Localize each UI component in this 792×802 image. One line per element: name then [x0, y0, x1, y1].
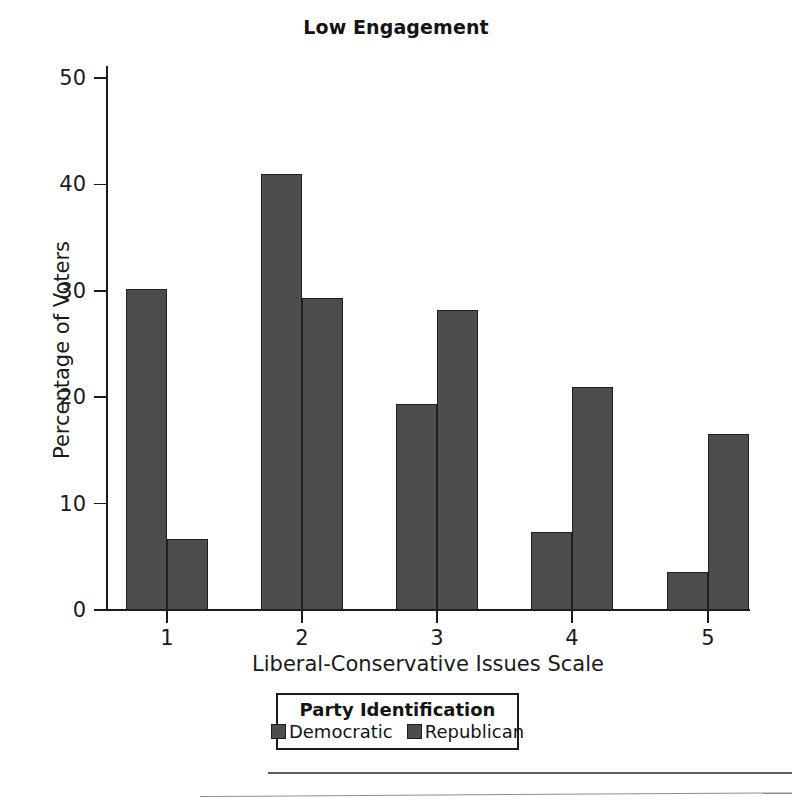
bar-republican-2 — [302, 298, 343, 610]
y-tick-10 — [94, 503, 106, 505]
y-tick-40 — [94, 184, 106, 186]
y-tick-50 — [94, 77, 106, 79]
x-axis-label: Liberal-Conservative Issues Scale — [106, 652, 750, 676]
bar-democratic-3 — [396, 404, 437, 610]
bar-democratic-4 — [531, 532, 572, 610]
bar-democratic-5 — [667, 572, 708, 610]
bar-republican-5 — [708, 434, 749, 610]
y-axis-label: Percentage of Voters — [50, 170, 74, 530]
y-tick-30 — [94, 290, 106, 292]
legend-entry-republican: Republican — [407, 721, 524, 742]
x-tick-label-4: 4 — [542, 626, 602, 650]
x-tick-label-5: 5 — [678, 626, 738, 650]
y-tick-label-50: 50 — [26, 66, 86, 90]
bar-democratic-2 — [261, 174, 302, 610]
bar-republican-1 — [167, 539, 208, 610]
y-tick-label-40: 40 — [26, 172, 86, 196]
page-rule-top — [268, 772, 792, 774]
bar-democratic-1 — [126, 289, 167, 610]
legend-swatch-republican-icon — [407, 724, 422, 739]
x-tick-4 — [571, 611, 573, 623]
x-tick-label-3: 3 — [407, 626, 467, 650]
legend: Party Identification DemocraticRepublica… — [276, 693, 519, 750]
legend-title: Party Identification — [286, 699, 509, 720]
x-tick-2 — [301, 611, 303, 623]
x-tick-1 — [166, 611, 168, 623]
bar-republican-4 — [572, 387, 613, 610]
bar-republican-3 — [437, 310, 478, 610]
bar-chart-figure: Low Engagement Percentage of Voters Libe… — [0, 0, 792, 802]
x-tick-5 — [707, 611, 709, 623]
y-tick-label-0: 0 — [26, 598, 86, 622]
legend-label-democratic: Democratic — [289, 721, 393, 742]
plot-area: Percentage of Voters Liberal-Conservativ… — [0, 0, 792, 802]
y-tick-20 — [94, 396, 106, 398]
y-tick-label-10: 10 — [26, 492, 86, 516]
x-tick-label-2: 2 — [272, 626, 332, 650]
y-tick-label-30: 30 — [26, 279, 86, 303]
legend-label-republican: Republican — [425, 721, 524, 742]
y-tick-label-20: 20 — [26, 385, 86, 409]
x-tick-label-1: 1 — [137, 626, 197, 650]
legend-swatch-democratic-icon — [271, 724, 286, 739]
legend-entry-democratic: Democratic — [271, 721, 393, 742]
x-tick-3 — [436, 611, 438, 623]
y-tick-0 — [94, 609, 106, 611]
y-axis-line — [106, 66, 108, 611]
legend-entries: DemocraticRepublican — [286, 721, 509, 742]
